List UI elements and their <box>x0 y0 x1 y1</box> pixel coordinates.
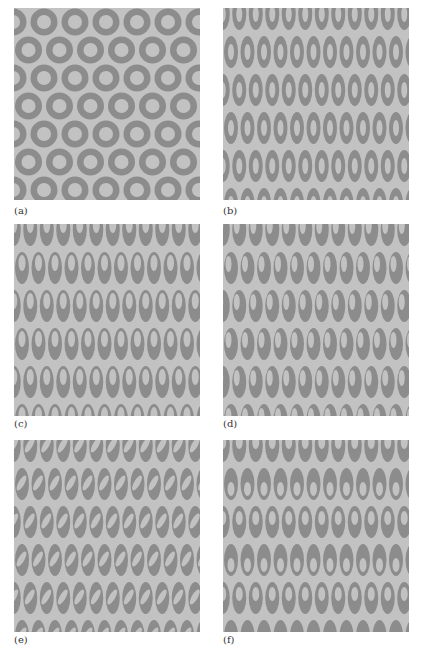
panel-label-c: (c) <box>14 418 27 430</box>
pattern-panel-a <box>14 8 200 200</box>
pattern-panel-b <box>223 8 409 200</box>
panel-label-f: (f) <box>223 634 235 646</box>
pattern-panel-f <box>223 440 409 632</box>
pattern-panel-d <box>223 224 409 416</box>
panel-label-e: (e) <box>14 634 28 646</box>
panel-label-d: (d) <box>223 418 237 430</box>
pattern-svg-b <box>223 8 409 200</box>
panel-label-b: (b) <box>223 205 237 217</box>
pattern-svg-c <box>14 224 200 416</box>
pattern-svg-e <box>14 440 200 632</box>
pattern-svg-d <box>223 224 409 416</box>
pattern-svg-f <box>223 440 409 632</box>
pattern-svg-a <box>14 8 200 200</box>
pattern-panel-e <box>14 440 200 632</box>
panel-label-a: (a) <box>14 205 28 217</box>
pattern-panel-c <box>14 224 200 416</box>
